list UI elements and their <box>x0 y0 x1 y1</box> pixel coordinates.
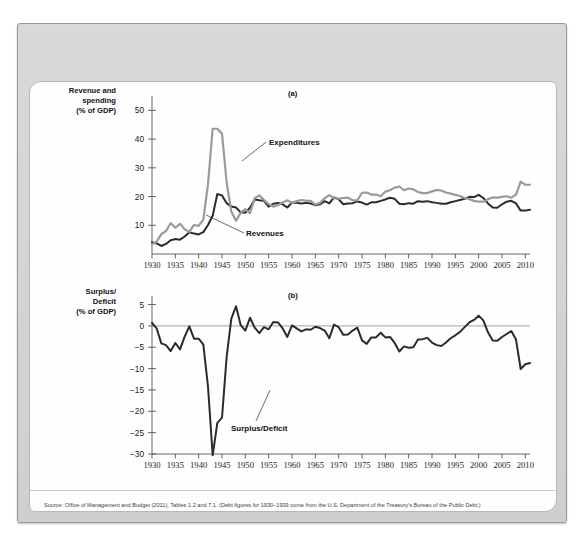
svg-text:2000: 2000 <box>470 260 487 270</box>
svg-text:1945: 1945 <box>213 460 230 470</box>
expenditures-series-label: Expenditures <box>269 138 320 147</box>
svg-text:−5: −5 <box>135 342 145 352</box>
surplus-deficit-series-label: Surplus/Deficit <box>231 424 287 433</box>
svg-text:10: 10 <box>135 220 145 230</box>
svg-text:30: 30 <box>135 163 145 173</box>
svg-text:1995: 1995 <box>447 460 464 470</box>
svg-text:−30: −30 <box>130 449 144 459</box>
svg-text:5: 5 <box>139 300 144 310</box>
svg-text:1975: 1975 <box>353 460 370 470</box>
svg-text:0: 0 <box>139 321 144 331</box>
svg-text:1955: 1955 <box>260 260 277 270</box>
svg-text:1970: 1970 <box>330 260 347 270</box>
svg-text:1950: 1950 <box>237 260 254 270</box>
svg-text:1985: 1985 <box>400 260 417 270</box>
svg-text:1975: 1975 <box>353 260 370 270</box>
svg-text:−15: −15 <box>130 385 144 395</box>
svg-text:2005: 2005 <box>493 460 510 470</box>
svg-text:1935: 1935 <box>167 460 184 470</box>
svg-text:1955: 1955 <box>260 460 277 470</box>
svg-text:1985: 1985 <box>400 460 417 470</box>
svg-text:1965: 1965 <box>307 460 324 470</box>
svg-text:1990: 1990 <box>423 260 440 270</box>
svg-text:2005: 2005 <box>493 260 510 270</box>
svg-text:40: 40 <box>135 134 145 144</box>
svg-text:2000: 2000 <box>470 460 487 470</box>
svg-text:1965: 1965 <box>307 260 324 270</box>
svg-text:50: 50 <box>135 105 145 115</box>
source-note: Source: Office of Management and Budget … <box>44 500 544 511</box>
svg-text:1950: 1950 <box>237 460 254 470</box>
svg-text:1940: 1940 <box>190 260 207 270</box>
figure-container: (a) Revenue andspending(% of GDP) 102030… <box>17 23 567 523</box>
svg-text:1970: 1970 <box>330 460 347 470</box>
svg-text:20: 20 <box>135 192 145 202</box>
svg-text:1995: 1995 <box>447 260 464 270</box>
svg-text:−10: −10 <box>130 364 144 374</box>
svg-text:1940: 1940 <box>190 460 207 470</box>
svg-text:1960: 1960 <box>283 460 300 470</box>
panel-b-plot: 50−5−10−15−20−25−30193019351940194519501… <box>30 282 557 497</box>
svg-text:−20: −20 <box>130 406 144 416</box>
svg-text:1935: 1935 <box>167 260 184 270</box>
svg-text:1980: 1980 <box>377 260 394 270</box>
chart-panel-area: (a) Revenue andspending(% of GDP) 102030… <box>29 81 557 512</box>
svg-text:1945: 1945 <box>213 260 230 270</box>
svg-text:2010: 2010 <box>517 260 534 270</box>
source-note-container: Source: Office of Management and Budget … <box>29 494 557 538</box>
source-divider <box>29 490 557 491</box>
svg-text:1960: 1960 <box>283 260 300 270</box>
svg-text:2010: 2010 <box>517 460 534 470</box>
svg-text:1980: 1980 <box>377 460 394 470</box>
panel-a-plot: 1020304050193019351940194519501955196019… <box>30 82 557 282</box>
svg-text:1930: 1930 <box>143 460 160 470</box>
revenues-series-label: Revenues <box>246 229 284 238</box>
svg-text:−25: −25 <box>130 428 144 438</box>
svg-text:1990: 1990 <box>423 460 440 470</box>
svg-text:1930: 1930 <box>143 260 160 270</box>
